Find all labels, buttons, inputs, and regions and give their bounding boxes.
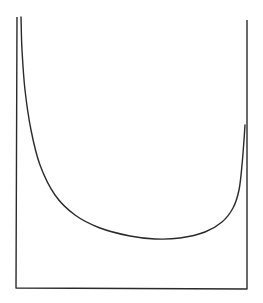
- u-shaped-curve: [21, 17, 245, 239]
- open-box-outline: [16, 17, 247, 289]
- diagram-svg: [0, 0, 263, 303]
- diagram-canvas: [0, 0, 263, 303]
